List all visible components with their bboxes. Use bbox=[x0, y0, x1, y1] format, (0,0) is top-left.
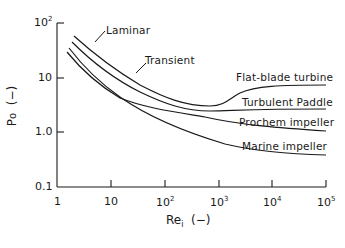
y-tick-label-0-1: 0.1 bbox=[35, 181, 53, 192]
y-tick-base: 10 bbox=[34, 16, 48, 29]
x-tick-label-100: 102 bbox=[156, 196, 174, 208]
x-tick-base: 1 bbox=[54, 195, 61, 208]
y-tick-base: 10 bbox=[38, 71, 52, 84]
x-tick-base: 10 bbox=[210, 196, 224, 209]
x-tick-exp: 5 bbox=[331, 195, 335, 203]
x-tick-label-1000: 103 bbox=[210, 196, 228, 208]
y-axis-unit: (−) bbox=[5, 86, 19, 105]
x-axis-re: Re bbox=[166, 213, 181, 227]
x-tick-label-10000: 104 bbox=[263, 196, 281, 208]
label-turbulent-paddle: Turbulent Paddle bbox=[242, 97, 333, 108]
x-axis-title: Rei (−) bbox=[166, 214, 210, 229]
y-tick-label-100: 102 bbox=[34, 16, 52, 28]
y-axis-p: P bbox=[5, 119, 19, 126]
x-axis-unit: (−) bbox=[191, 213, 210, 227]
y-axis-o: o bbox=[7, 113, 18, 119]
laminar-leader bbox=[95, 31, 105, 42]
label-flat-blade-turbine: Flat-blade turbine bbox=[236, 72, 333, 83]
x-tick-label-10: 10 bbox=[104, 196, 118, 207]
y-axis-title: Po (−) bbox=[6, 86, 18, 126]
label-prochem-impeller: Prochem impeller bbox=[239, 117, 334, 128]
x-tick-base: 10 bbox=[104, 195, 118, 208]
y-tick-label-1: 1.0 bbox=[35, 126, 53, 137]
x-axis-sub-i: i bbox=[181, 220, 183, 229]
x-tick-base: 10 bbox=[263, 196, 277, 209]
y-tick-label-10: 10 bbox=[38, 72, 52, 83]
label-laminar: Laminar bbox=[106, 25, 150, 36]
curves bbox=[67, 31, 326, 155]
x-tick-label-1: 1 bbox=[54, 196, 61, 207]
x-tick-base: 10 bbox=[156, 196, 170, 209]
y-tick-exp: 2 bbox=[48, 15, 52, 23]
x-tick-exp: 2 bbox=[170, 195, 174, 203]
y-tick-base: 1.0 bbox=[35, 125, 53, 138]
label-marine-impeller: Marine impeller bbox=[242, 141, 327, 152]
x-tick-label-100000: 105 bbox=[317, 196, 335, 208]
y-tick-base: 0.1 bbox=[35, 180, 53, 193]
label-transient: Transient bbox=[145, 55, 195, 66]
x-tick-exp: 4 bbox=[277, 195, 281, 203]
x-tick-exp: 3 bbox=[224, 195, 228, 203]
x-tick-base: 10 bbox=[317, 196, 331, 209]
